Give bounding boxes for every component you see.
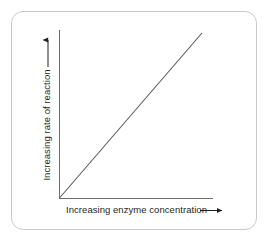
data-series-line bbox=[60, 33, 203, 198]
y-axis-label: Increasing rate of reaction bbox=[41, 69, 53, 180]
x-axis-label: Increasing enzyme concentration bbox=[59, 204, 214, 216]
enzyme-concentration-figure: Increasing enzyme concentration Increasi… bbox=[0, 0, 273, 245]
